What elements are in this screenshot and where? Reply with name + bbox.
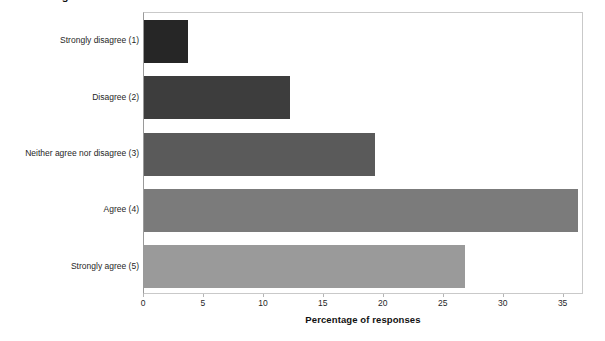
x-tick-label: 30 [488,298,518,308]
category-label: Strongly disagree (1) [0,35,139,45]
bar-series [144,13,582,293]
bar-chart: Strongly disagree (1)Disagree (2)Neither… [0,0,605,341]
bar-row [144,245,582,288]
x-tick-mark [323,294,324,297]
x-tick-label: 25 [428,298,458,308]
category-label: Strongly agree (5) [0,261,139,271]
category-axis-labels: Strongly disagree (1)Disagree (2)Neither… [0,12,139,294]
x-tick-mark [203,294,204,297]
x-tick-label: 10 [248,298,278,308]
x-tick-label: 20 [368,298,398,308]
x-tick-label: 15 [308,298,338,308]
x-tick-mark [263,294,264,297]
bar-row [144,133,582,176]
category-label: Disagree (2) [0,92,139,102]
x-tick-label: 0 [128,298,158,308]
x-tick-label: 35 [548,298,578,308]
x-axis-title: Percentage of responses [143,314,583,325]
category-label: Neither agree nor disagree (3) [0,148,139,158]
bar [144,133,375,176]
x-tick-mark [563,294,564,297]
x-tick-mark [443,294,444,297]
category-label: Agree (4) [0,204,139,214]
bar-row [144,76,582,119]
bar [144,189,578,232]
x-tick-mark [143,294,144,297]
bar [144,245,465,288]
bar [144,76,290,119]
x-tick-label: 5 [188,298,218,308]
bar [144,20,188,63]
x-tick-mark [383,294,384,297]
x-tick-mark [503,294,504,297]
x-axis-ticks: 05101520253035 [0,294,605,312]
bar-row [144,20,582,63]
plot-area [143,12,583,294]
bar-row [144,189,582,232]
